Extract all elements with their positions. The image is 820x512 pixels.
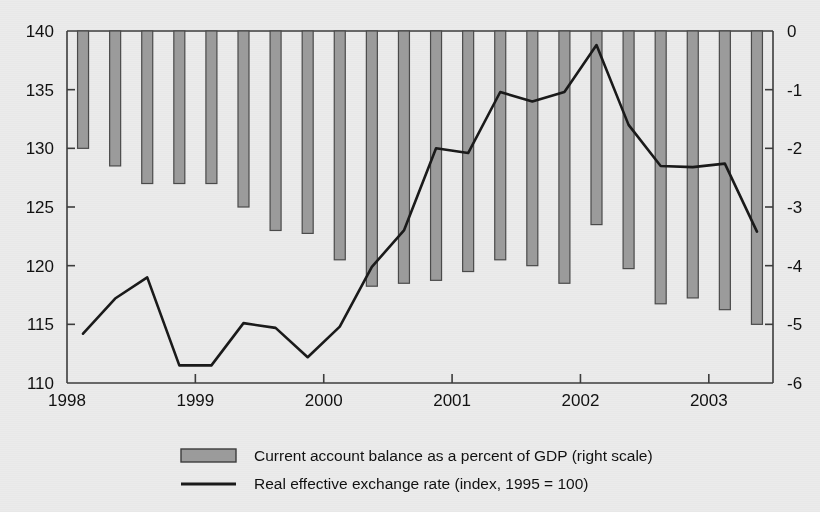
right-axis-tick-label: -2 (787, 139, 802, 158)
x-axis-tick-label: 2003 (690, 391, 728, 410)
bar (687, 31, 698, 298)
bar (559, 31, 570, 283)
bar (78, 31, 89, 148)
x-axis-tick-label: 2002 (562, 391, 600, 410)
legend-label-real-effective-exchange-rate: Real effective exchange rate (index, 199… (254, 475, 588, 492)
bar (142, 31, 153, 184)
x-axis-tick-label: 1999 (176, 391, 214, 410)
legend-item-real-effective-exchange-rate: Real effective exchange rate (index, 199… (181, 475, 588, 492)
bar (174, 31, 185, 184)
left-axis-tick-label: 125 (26, 198, 54, 217)
right-axis-tick-label: -3 (787, 198, 802, 217)
x-axis-tick-label: 2001 (433, 391, 471, 410)
bar-series-current-account-balance (78, 31, 763, 324)
chart-figure: 110115120125130135140 0-1-2-3-4-5-6 1998… (0, 0, 820, 512)
right-axis-tick-label: 0 (787, 22, 796, 41)
right-axis-tick-label: -6 (787, 374, 802, 393)
left-axis-tick-label: 140 (26, 22, 54, 41)
right-axis-tick-label: -1 (787, 81, 802, 100)
plot-frame (67, 31, 773, 383)
left-axis-tick-label: 135 (26, 81, 54, 100)
bar (495, 31, 506, 260)
right-axis-ticks: 0-1-2-3-4-5-6 (765, 22, 802, 393)
left-axis-tick-label: 130 (26, 139, 54, 158)
left-axis-tick-label: 115 (27, 315, 54, 334)
right-axis-tick-label: -5 (787, 315, 802, 334)
bar (751, 31, 762, 324)
bar (334, 31, 345, 260)
right-axis-tick-label: -4 (787, 257, 802, 276)
x-axis-tick-label: 1998 (48, 391, 86, 410)
left-axis-tick-label: 120 (26, 257, 54, 276)
chart-legend: Current account balance as a percent of … (181, 447, 653, 492)
bar (527, 31, 538, 266)
legend-bar-swatch (181, 449, 236, 462)
bar (591, 31, 602, 225)
bar (302, 31, 313, 233)
bar (366, 31, 377, 286)
bar (206, 31, 217, 184)
x-axis-ticks: 199819992000200120022003 (48, 374, 728, 410)
bar (110, 31, 121, 166)
legend-item-current-account-balance: Current account balance as a percent of … (181, 447, 653, 464)
bar (238, 31, 249, 207)
bar (655, 31, 666, 304)
legend-label-current-account-balance: Current account balance as a percent of … (254, 447, 653, 464)
bar (270, 31, 281, 230)
bar (398, 31, 409, 283)
x-axis-tick-label: 2000 (305, 391, 343, 410)
bar (623, 31, 634, 269)
